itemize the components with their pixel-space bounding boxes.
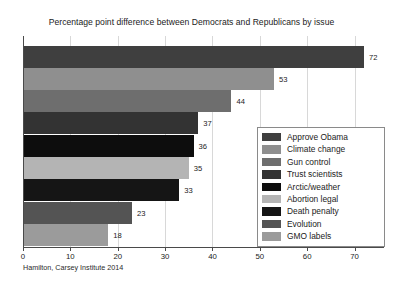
y-axis-line (23, 36, 24, 248)
bar[interactable] (23, 224, 108, 246)
bar-value-label: 53 (274, 74, 287, 83)
legend-swatch (262, 183, 281, 192)
x-tick-mark (212, 248, 213, 251)
legend-label: Evolution (287, 220, 321, 228)
legend-label: GMO labels (287, 232, 331, 240)
bar-value-label: 44 (231, 97, 244, 106)
legend-swatch (262, 158, 281, 167)
bar[interactable] (23, 112, 198, 134)
chart-legend: Approve ObamaClimate changeGun controlTr… (257, 127, 385, 247)
legend-item[interactable]: Climate change (262, 143, 380, 155)
legend-item[interactable]: GMO labels (262, 230, 380, 242)
bar-row[interactable]: 44 (23, 90, 383, 112)
x-tick-mark (118, 248, 119, 251)
x-tick-label: 10 (66, 252, 75, 261)
x-tick-mark (70, 248, 71, 251)
legend-swatch (262, 170, 281, 179)
bar[interactable] (23, 157, 189, 179)
x-tick-label: 50 (255, 252, 264, 261)
legend-swatch (262, 133, 281, 142)
legend-label: Arctic/weather (287, 183, 340, 191)
bar[interactable] (23, 68, 274, 90)
x-tick-mark (355, 248, 356, 251)
bar-row[interactable]: 53 (23, 68, 383, 90)
legend-item[interactable]: Gun control (262, 156, 380, 168)
legend-label: Climate change (287, 145, 345, 153)
legend-label: Death penalty (287, 207, 339, 215)
legend-label: Abortion legal (287, 195, 338, 203)
x-axis-ticks: 010203040506070 (0, 248, 397, 264)
x-tick-label: 0 (21, 252, 25, 261)
x-tick-mark (260, 248, 261, 251)
bar-value-label: 18 (108, 230, 121, 239)
chart-title: Percentage point difference between Demo… (0, 17, 383, 27)
legend-label: Approve Obama (287, 133, 348, 141)
x-tick-mark (23, 248, 24, 251)
legend-swatch (262, 207, 281, 216)
x-tick-label: 40 (208, 252, 217, 261)
legend-swatch (262, 232, 281, 241)
bar[interactable] (23, 46, 364, 68)
x-tick-mark (307, 248, 308, 251)
legend-label: Gun control (287, 158, 330, 166)
bar-row[interactable]: 72 (23, 46, 383, 68)
x-tick-label: 60 (303, 252, 312, 261)
legend-item[interactable]: Approve Obama (262, 131, 380, 143)
legend-swatch (262, 195, 281, 204)
bar-value-label: 37 (198, 119, 211, 128)
legend-swatch (262, 145, 281, 154)
x-tick-label: 20 (113, 252, 122, 261)
legend-item[interactable]: Death penalty (262, 205, 380, 217)
legend-item[interactable]: Evolution (262, 218, 380, 230)
x-tick-mark (165, 248, 166, 251)
bar[interactable] (23, 90, 231, 112)
bar[interactable] (23, 202, 132, 224)
bar-value-label: 35 (189, 164, 202, 173)
legend-item[interactable]: Trust scientists (262, 168, 380, 180)
legend-item[interactable]: Abortion legal (262, 193, 380, 205)
x-tick-label: 30 (161, 252, 170, 261)
bar-value-label: 33 (179, 186, 192, 195)
bar-chart-figure: Percentage point difference between Demo… (0, 0, 397, 299)
legend-swatch (262, 220, 281, 229)
bar-value-label: 36 (194, 141, 207, 150)
legend-item[interactable]: Arctic/weather (262, 181, 380, 193)
bar-value-label: 72 (364, 52, 377, 61)
source-caption: Hamilton, Carsey Institute 2014 (23, 263, 123, 272)
bar-value-label: 23 (132, 208, 145, 217)
bar[interactable] (23, 179, 179, 201)
bar[interactable] (23, 135, 194, 157)
legend-label: Trust scientists (287, 170, 343, 178)
x-tick-label: 70 (350, 252, 359, 261)
